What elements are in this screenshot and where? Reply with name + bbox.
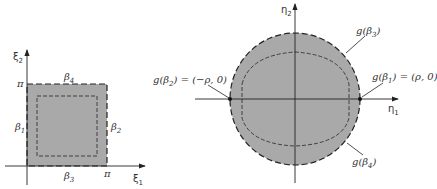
- x-tick-pi: π: [103, 168, 111, 179]
- leader-beta1: [362, 83, 383, 97]
- eta1-label: η1: [388, 103, 399, 117]
- beta2-label: β2: [110, 121, 122, 135]
- point-rho: [358, 97, 362, 101]
- beta4-label: β4: [63, 71, 74, 85]
- y-tick-pi: π: [16, 78, 24, 89]
- g-beta3-label: g(β3): [356, 25, 381, 39]
- leader-beta4: [347, 143, 363, 155]
- xi1-label: ξ1: [133, 173, 143, 187]
- left-panel: ξ2 ξ1 π π β4 β1 β2 β3: [5, 50, 145, 187]
- leader-beta2: [208, 85, 229, 98]
- leader-beta3: [346, 36, 365, 53]
- xi2-label: ξ2: [13, 51, 23, 65]
- beta3-label: β3: [63, 170, 75, 184]
- beta1-label: β1: [14, 121, 25, 135]
- eta2-label: η2: [281, 4, 292, 18]
- right-panel: η2 η1 g(β3) g(β1) = (ρ, 0) g(β2) = (−ρ, …: [153, 4, 437, 183]
- diagram-canvas: ξ2 ξ1 π π β4 β1 β2 β3 η2 η1 g(β3) g(β1) …: [0, 0, 437, 189]
- g-beta4-label: g(β4): [352, 156, 377, 170]
- g-beta1-label: g(β1) = (ρ, 0): [372, 71, 437, 85]
- g-beta2-label: g(β2) = (−ρ, 0): [153, 74, 227, 88]
